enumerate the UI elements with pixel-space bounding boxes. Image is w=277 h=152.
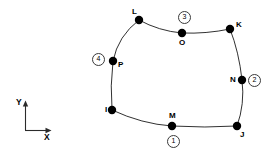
node-label-i: I bbox=[105, 106, 107, 114]
node-label-o: O bbox=[179, 39, 185, 47]
node-dot-i bbox=[108, 106, 116, 114]
element-node-diagram: I J K L M N O P 1 2 3 4 Y X bbox=[0, 0, 277, 152]
node-label-l: L bbox=[132, 8, 137, 16]
node-label-n: N bbox=[230, 76, 236, 84]
element-edges bbox=[111, 20, 243, 127]
y-axis-label: Y bbox=[16, 98, 22, 107]
node-dot-p bbox=[109, 57, 117, 65]
node-label-k: K bbox=[236, 21, 242, 29]
node-label-p: P bbox=[118, 61, 123, 69]
side-badge-2: 2 bbox=[248, 74, 261, 87]
node-dot-n bbox=[238, 76, 246, 84]
edge-side-4-left bbox=[111, 20, 139, 110]
node-label-j: J bbox=[240, 131, 244, 139]
node-label-m: M bbox=[169, 112, 176, 120]
side-badge-3: 3 bbox=[178, 11, 191, 24]
side-badge-1: 1 bbox=[167, 135, 180, 148]
side-badge-4: 4 bbox=[92, 53, 105, 66]
x-axis-label: X bbox=[44, 133, 50, 142]
element-nodes bbox=[108, 16, 246, 130]
coordinate-axes bbox=[23, 101, 52, 134]
node-dot-l bbox=[135, 16, 143, 24]
node-dot-k bbox=[226, 25, 234, 33]
node-dot-o bbox=[178, 29, 186, 37]
node-dot-j bbox=[233, 122, 241, 130]
node-dot-m bbox=[168, 122, 176, 130]
y-axis-arrowhead-icon bbox=[23, 101, 28, 107]
